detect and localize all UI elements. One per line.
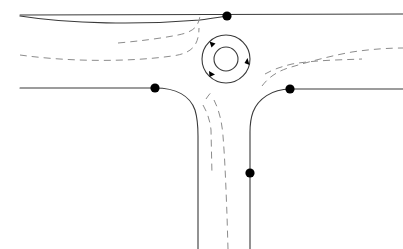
- lane-marking-south-short: [203, 105, 212, 175]
- lane-marking-ne-inner: [265, 59, 362, 74]
- road-network-svg: [0, 0, 403, 249]
- lane-marking-south-long: [214, 100, 228, 249]
- lane-markings-group: [20, 14, 403, 249]
- node-south-approach[interactable]: [245, 168, 254, 177]
- roundabout-arrow-northwest-icon: [210, 42, 216, 48]
- node-west-approach[interactable]: [150, 83, 159, 92]
- lane-marking-nw-inner: [118, 14, 200, 43]
- lane-marking-south-entry: [206, 91, 213, 99]
- roundabout-group: [202, 35, 250, 83]
- road-edge-east-to-south: [250, 89, 403, 249]
- lane-marking-ne-outer: [262, 48, 403, 86]
- road-edge-west-to-south: [20, 88, 198, 249]
- road-edge-north-lower: [20, 16, 227, 23]
- road-edge-north-upper: [20, 14, 403, 15]
- lane-marking-nw-outer: [20, 28, 199, 60]
- roundabout-arrow-southwest-icon: [209, 71, 215, 77]
- roundabout-outer-circle: [202, 35, 250, 83]
- roundabout-inner-circle: [214, 47, 238, 71]
- roundabout-diagram: [0, 0, 403, 249]
- node-north-approach[interactable]: [222, 11, 231, 20]
- node-east-approach[interactable]: [285, 84, 294, 93]
- roundabout-arrow-east-icon: [245, 58, 250, 65]
